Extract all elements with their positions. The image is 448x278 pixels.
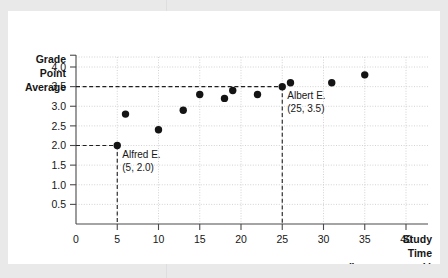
svg-text:30: 30: [318, 233, 330, 245]
data-point: [122, 110, 129, 117]
svg-text:15: 15: [194, 233, 206, 245]
svg-text:2.5: 2.5: [51, 120, 66, 132]
data-points: [114, 71, 369, 149]
y-axis-title-line: Average: [25, 81, 66, 93]
annotation-coords: (5, 2.0): [122, 162, 154, 173]
annotation-coords: (25, 3.5): [287, 103, 324, 114]
svg-text:1.0: 1.0: [51, 179, 66, 191]
svg-text:10: 10: [153, 233, 165, 245]
annotation-name: Alfred E.: [122, 149, 160, 160]
scatter-plot: 0.51.01.52.02.53.03.54.0 051015202530354…: [8, 11, 440, 264]
svg-text:35: 35: [359, 233, 371, 245]
y-axis-title-line: Grade: [36, 53, 67, 65]
svg-text:2.0: 2.0: [51, 139, 66, 151]
x-axis-title-line: Time: [408, 247, 432, 259]
x-axis-ticks: [117, 224, 406, 230]
point-annotations: Alfred E.(5, 2.0)Albert E.(25, 3.5): [122, 90, 325, 173]
svg-text:1.5: 1.5: [51, 159, 66, 171]
data-point: [229, 87, 236, 94]
svg-text:25: 25: [276, 233, 288, 245]
scatter-plot-svg: 0.51.01.52.02.53.03.54.0 051015202530354…: [8, 11, 440, 264]
svg-text:0.5: 0.5: [51, 198, 66, 210]
svg-text:3.0: 3.0: [51, 100, 66, 112]
data-point: [361, 71, 368, 78]
screenshot-root: 0.51.01.52.02.53.03.54.0 051015202530354…: [0, 0, 448, 278]
x-axis-tick-labels: 0510152025303540: [73, 233, 412, 245]
chart-card: 0.51.01.52.02.53.03.54.0 051015202530354…: [8, 11, 440, 264]
svg-text:20: 20: [235, 233, 247, 245]
data-point: [279, 83, 286, 90]
gridlines-vertical: [117, 57, 406, 224]
data-point: [221, 95, 228, 102]
x-axis-title-line: Study: [403, 233, 432, 245]
guide-lines: [76, 87, 282, 224]
svg-text:0: 0: [73, 233, 79, 245]
data-point: [196, 91, 203, 98]
svg-text:5: 5: [114, 233, 120, 245]
y-axis-title-line: Point: [40, 67, 67, 79]
gridlines-horizontal: [76, 57, 428, 204]
data-point: [328, 79, 335, 86]
x-axis-title-line: (hours per week): [348, 261, 432, 264]
data-point: [254, 91, 261, 98]
annotation-name: Albert E.: [287, 90, 325, 101]
data-point: [287, 79, 294, 86]
y-axis-ticks: [70, 55, 76, 204]
y-axis-title: GradePointAverage: [25, 53, 67, 93]
data-point: [114, 142, 121, 149]
data-point: [155, 126, 162, 133]
data-point: [180, 106, 187, 113]
